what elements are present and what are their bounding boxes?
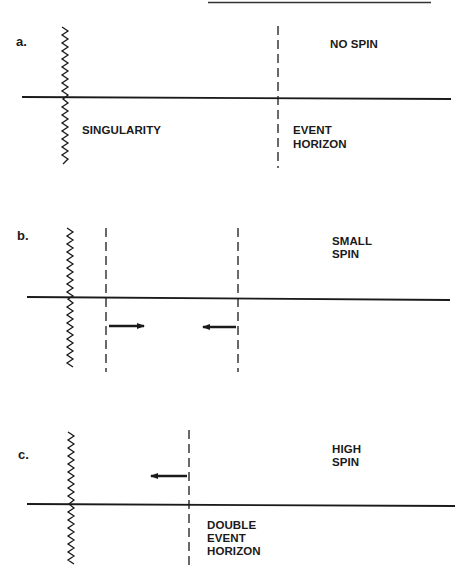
event-horizon-label-line1: EVENT bbox=[293, 124, 332, 137]
panel-c-title-line2: SPIN bbox=[332, 456, 359, 469]
panel-c-title-line1: HIGH bbox=[332, 443, 361, 456]
double-horizon-label-line3: HORIZON bbox=[207, 545, 261, 558]
singularity-zigzag-a bbox=[62, 27, 68, 164]
double-horizon-label-line2: EVENT bbox=[207, 532, 246, 545]
panel-b-title-line2: SPIN bbox=[332, 248, 359, 261]
event-horizon-label-line2: HORIZON bbox=[293, 138, 347, 151]
panel-a-title: NO SPIN bbox=[330, 38, 378, 51]
panel-b-title-line1: SMALL bbox=[332, 235, 372, 248]
singularity-zigzag-c bbox=[68, 432, 74, 564]
panel-a-graphics bbox=[22, 26, 451, 168]
panel-c-letter: c. bbox=[18, 448, 29, 461]
axis-line-c bbox=[27, 504, 455, 506]
panel-b-letter: b. bbox=[17, 229, 29, 242]
singularity-label: SINGULARITY bbox=[82, 124, 161, 137]
diagram-graphics bbox=[0, 0, 474, 566]
panel-a-letter: a. bbox=[16, 35, 27, 48]
double-horizon-label-line1: DOUBLE bbox=[207, 519, 256, 532]
panel-b-graphics bbox=[27, 228, 450, 372]
black-hole-spin-diagram: a. NO SPIN SINGULARITY EVENT HORIZON b. … bbox=[0, 0, 474, 566]
axis-line-a bbox=[22, 97, 451, 99]
